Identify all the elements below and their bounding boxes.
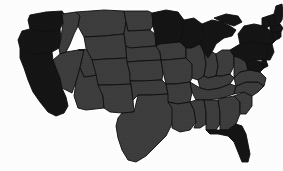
state-ia: Iowa bbox=[156, 42, 186, 60]
state-ri: Rhode Island bbox=[278, 32, 281, 37]
state-or: Oregon bbox=[18, 29, 61, 54]
state-wy: Wyoming bbox=[84, 34, 127, 60]
state-ks: Kansas bbox=[127, 60, 163, 81]
state-oh: Ohio bbox=[216, 50, 234, 76]
state-mt: Montana bbox=[76, 10, 126, 37]
us-map-svg: WashingtonOregonCaliforniaIdahoNevadaUta… bbox=[0, 0, 283, 171]
state-ar: Arkansas bbox=[166, 82, 192, 104]
state-ne: Nebraska bbox=[126, 46, 161, 62]
state-mo: Missouri bbox=[161, 58, 194, 84]
state-nd: North Dakota bbox=[124, 11, 153, 31]
state-co: Colorado bbox=[92, 58, 131, 85]
state-mn: Minnesota bbox=[152, 10, 184, 46]
state-al: Alabama bbox=[204, 100, 220, 130]
state-wa: Washington bbox=[28, 11, 64, 31]
us-choropleth-map: WashingtonOregonCaliforniaIdahoNevadaUta… bbox=[0, 0, 283, 171]
